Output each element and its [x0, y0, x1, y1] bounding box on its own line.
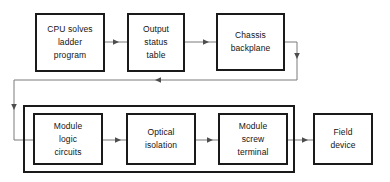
node-label-line: circuits — [54, 146, 81, 159]
node-label-line: logic — [59, 133, 77, 146]
arrowhead-right-icon — [203, 39, 209, 45]
node-output-status-table[interactable]: Output status table — [127, 13, 185, 72]
node-field-device[interactable]: Field device — [313, 113, 373, 165]
node-label-line: backplane — [231, 42, 271, 55]
node-cpu-solves-ladder-program[interactable]: CPU solves ladder program — [35, 13, 105, 72]
node-label-line: status — [144, 36, 167, 49]
node-module-logic-circuits[interactable]: Module logic circuits — [33, 113, 103, 165]
node-chassis-backplane[interactable]: Chassis backplane — [216, 13, 285, 71]
node-label-line: program — [54, 49, 86, 62]
node-label-line: Optical — [147, 126, 174, 139]
node-label-line: device — [330, 139, 355, 152]
block-diagram: CPU solves ladder program Output status … — [0, 0, 390, 182]
arrowhead-right-icon — [302, 137, 308, 143]
node-label-line: Module — [239, 120, 267, 133]
arrowhead-left-icon — [155, 77, 161, 83]
node-optical-isolation[interactable]: Optical isolation — [126, 113, 196, 165]
node-module-screw-terminal[interactable]: Module screw terminal — [218, 113, 288, 165]
arrowhead-down-icon — [11, 104, 17, 110]
arrowhead-right-icon — [113, 39, 119, 45]
node-label-line: Chassis — [235, 29, 266, 42]
node-label-line: Output — [143, 23, 169, 36]
node-label-line: ladder — [58, 36, 82, 49]
node-label-line: screw — [242, 133, 265, 146]
node-label-line: table — [147, 49, 166, 62]
arrowhead-down-icon — [294, 53, 300, 59]
node-label-line: isolation — [145, 139, 177, 152]
node-label-line: terminal — [237, 146, 268, 159]
node-label-line: Field — [334, 126, 353, 139]
node-label-line: Module — [54, 120, 82, 133]
node-label-line: CPU solves — [47, 23, 92, 36]
